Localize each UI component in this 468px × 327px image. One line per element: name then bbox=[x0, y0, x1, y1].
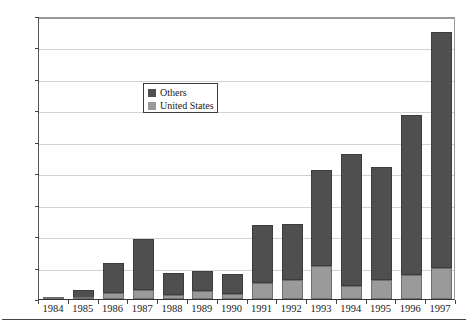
bar-segment-others bbox=[431, 32, 452, 268]
bar-segment-united-states bbox=[133, 290, 154, 299]
bar-stack bbox=[341, 154, 362, 299]
bar-segment-others bbox=[311, 170, 332, 266]
bar-segment-united-states bbox=[222, 294, 243, 299]
bar-stack bbox=[431, 32, 452, 299]
bar-stack bbox=[73, 290, 94, 299]
bar-stack bbox=[163, 273, 184, 299]
bar-segment-united-states bbox=[163, 295, 184, 299]
y-tickmark bbox=[35, 174, 39, 175]
bar-stack bbox=[133, 239, 154, 299]
bar-stack bbox=[103, 263, 124, 299]
bar-stack bbox=[311, 170, 332, 299]
bar-segment-united-states bbox=[282, 280, 303, 299]
stacked-bar-chart: U.S. dollars (billions) 0102030405060708… bbox=[0, 0, 468, 327]
bar-stack bbox=[401, 115, 422, 299]
bar-segment-others bbox=[222, 274, 243, 293]
bar-segment-united-states bbox=[341, 286, 362, 299]
bar-segment-others bbox=[401, 115, 422, 275]
bar-segment-others bbox=[282, 224, 303, 281]
y-tickmark bbox=[35, 269, 39, 270]
y-tickmark bbox=[35, 17, 39, 18]
bar-segment-others bbox=[252, 225, 273, 283]
x-tickmark bbox=[455, 300, 456, 304]
legend-label-united-states: United States bbox=[160, 101, 214, 111]
legend-item-others: Others bbox=[148, 87, 217, 99]
bar-stack bbox=[252, 225, 273, 299]
bar-segment-united-states bbox=[192, 291, 213, 299]
bar-stack bbox=[192, 271, 213, 299]
legend-swatch-united-states bbox=[148, 102, 156, 110]
bar-group bbox=[39, 18, 454, 299]
bar-segment-united-states bbox=[73, 297, 94, 299]
bar-segment-others bbox=[103, 263, 124, 293]
bar-stack bbox=[43, 297, 64, 299]
y-tickmark bbox=[35, 80, 39, 81]
bar-stack bbox=[282, 224, 303, 299]
plot-area bbox=[38, 17, 455, 300]
bar-stack bbox=[371, 167, 392, 299]
bar-segment-others bbox=[192, 271, 213, 291]
bar-stack bbox=[222, 274, 243, 299]
bar-segment-united-states bbox=[252, 283, 273, 299]
x-tick-label: 1997 bbox=[419, 304, 461, 315]
bar-segment-united-states bbox=[431, 268, 452, 299]
bar-segment-others bbox=[133, 239, 154, 289]
bar-segment-united-states bbox=[103, 293, 124, 299]
bar-segment-united-states bbox=[401, 275, 422, 299]
y-tickmark bbox=[35, 111, 39, 112]
bar-segment-united-states bbox=[311, 266, 332, 299]
y-tickmark bbox=[35, 143, 39, 144]
legend: Others United States bbox=[143, 83, 218, 113]
y-tickmark bbox=[35, 48, 39, 49]
y-tickmark bbox=[35, 237, 39, 238]
legend-label-others: Others bbox=[160, 88, 187, 98]
legend-item-united-states: United States bbox=[148, 100, 217, 112]
bar-segment-others bbox=[341, 154, 362, 286]
y-tickmark bbox=[35, 206, 39, 207]
bar-segment-united-states bbox=[43, 297, 64, 299]
bar-segment-others bbox=[371, 167, 392, 280]
bottom-rule bbox=[2, 319, 466, 320]
legend-swatch-others bbox=[148, 89, 156, 97]
bar-segment-united-states bbox=[371, 280, 392, 299]
bar-segment-others bbox=[163, 273, 184, 295]
